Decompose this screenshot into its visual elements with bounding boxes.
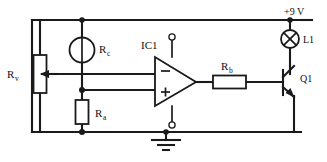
rv-label: R	[7, 68, 15, 80]
rb-label: R	[221, 60, 229, 72]
junction-node-ground	[163, 129, 169, 135]
circuit-diagram: R v R c R a IC1 R	[0, 0, 327, 162]
ra-label-subscript: a	[103, 113, 107, 122]
opamp-triangle-body	[155, 57, 196, 106]
schematic-canvas: R v R c R a IC1 R	[0, 0, 327, 162]
ra-label: R	[95, 107, 103, 119]
component-opamp-ic1[interactable]	[155, 34, 196, 128]
opamp-positive-supply-terminal[interactable]	[169, 34, 175, 40]
junction-node-rc-top	[79, 17, 85, 23]
supply-voltage-label: +9 V	[284, 6, 305, 17]
junction-node-supply	[287, 17, 293, 23]
junction-node-ra-bottom	[79, 129, 85, 135]
component-transistor-q1[interactable]	[283, 66, 295, 98]
rb-label-subscript: b	[229, 66, 233, 75]
component-variable-resistor-rv[interactable]	[34, 55, 57, 93]
component-lamp-l1[interactable]	[281, 30, 299, 48]
junction-node-divider	[79, 87, 85, 93]
rv-label-subscript: v	[15, 74, 19, 83]
q1-label: Q1	[300, 73, 312, 84]
component-resistor-ra[interactable]	[76, 100, 89, 124]
ic1-label: IC1	[141, 39, 158, 51]
rc-label-subscript: c	[107, 49, 111, 58]
opamp-negative-supply-terminal[interactable]	[169, 122, 175, 128]
ra-body	[76, 100, 89, 124]
component-resistor-rb[interactable]	[213, 76, 246, 89]
component-ldr-rc[interactable]	[70, 38, 95, 63]
component-ground-symbol	[152, 140, 180, 150]
rb-body	[213, 76, 246, 89]
l1-label: L1	[303, 34, 314, 45]
rc-label: R	[99, 43, 107, 55]
q1-collector-lead	[283, 66, 294, 77]
